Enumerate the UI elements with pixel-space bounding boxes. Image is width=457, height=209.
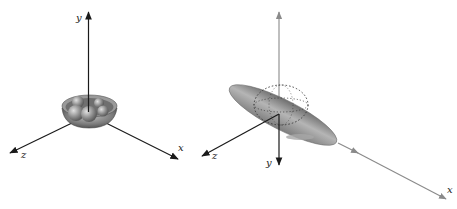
left-z-axis bbox=[10, 123, 72, 153]
left-x-axis bbox=[106, 123, 178, 159]
right-x-axis bbox=[356, 152, 446, 199]
bowl-with-spheres bbox=[62, 95, 117, 128]
right-panel: z y x bbox=[202, 12, 453, 199]
right-x-label: x bbox=[447, 184, 453, 195]
left-panel: y z x bbox=[10, 12, 184, 160]
left-z-label: z bbox=[20, 149, 27, 160]
tilted-ellipsoid bbox=[223, 74, 344, 155]
right-y-label: y bbox=[265, 157, 272, 168]
figure-canvas: y z x z y x bbox=[0, 0, 457, 209]
left-y-label: y bbox=[75, 12, 82, 23]
right-x-axis-front bbox=[338, 143, 358, 153]
left-x-label: x bbox=[178, 142, 184, 153]
right-z-label: z bbox=[211, 150, 218, 161]
